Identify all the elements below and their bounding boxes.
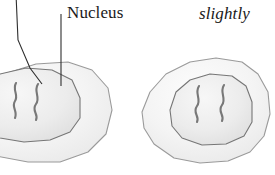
left-cell-nucleus — [0, 68, 80, 142]
cell-diagram-canvas — [0, 0, 275, 175]
right-cell — [142, 58, 270, 163]
left-cell — [0, 62, 112, 162]
figure-root: Nucleus slightly — [0, 0, 275, 175]
